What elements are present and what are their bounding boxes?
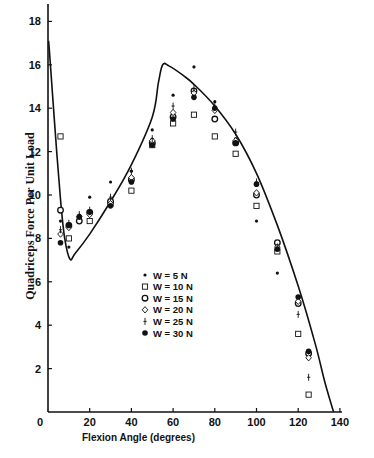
data-point <box>108 203 114 209</box>
x-tick-label: 120 <box>289 416 307 428</box>
data-point <box>151 128 154 131</box>
legend-marker-icon <box>142 284 147 289</box>
chart: 02040608010012014024681012141618 W = 5 N… <box>0 0 374 458</box>
y-tick-label: 14 <box>29 102 42 114</box>
legend-marker-icon <box>143 273 146 276</box>
y-tick-label: 2 <box>35 363 41 375</box>
x-tick-label: 80 <box>209 416 221 428</box>
data-point <box>192 65 195 68</box>
data-point <box>254 203 259 208</box>
legend-label: W = 15 N <box>153 293 193 304</box>
data-point <box>66 223 72 229</box>
data-point <box>233 140 239 146</box>
data-point <box>66 236 71 241</box>
data-point <box>255 219 258 222</box>
axes <box>48 4 342 412</box>
data-point <box>87 218 92 223</box>
data-point <box>58 134 63 139</box>
data-point <box>276 272 279 275</box>
legend-label: W = 20 N <box>153 304 193 315</box>
legend-marker-icon <box>142 295 148 301</box>
data-point <box>212 116 218 122</box>
theoretical-curve <box>49 41 334 412</box>
data-point <box>275 246 281 252</box>
y-tick-label: 4 <box>35 319 42 331</box>
data-point <box>76 214 82 220</box>
data-point <box>297 311 300 318</box>
data-point <box>306 348 312 354</box>
data-point <box>88 196 91 199</box>
data-point <box>172 103 175 110</box>
data-point <box>254 181 260 187</box>
legend-label: W = 30 N <box>153 328 193 339</box>
data-point <box>58 207 64 213</box>
data-point <box>295 294 301 300</box>
x-tick-label: 40 <box>125 416 137 428</box>
data-point <box>212 134 217 139</box>
x-tick-label: 0 <box>37 416 43 428</box>
legend-marker-icon <box>142 330 148 336</box>
legend-label: W = 25 N <box>153 316 193 327</box>
data-point <box>59 219 62 222</box>
data-point <box>307 374 310 381</box>
data-point <box>212 105 218 111</box>
legend-label: W = 10 N <box>153 281 193 292</box>
y-axis-title: Quadriceps Force Per Unit Load <box>23 132 37 300</box>
data-point <box>129 188 134 193</box>
legend-label: W = 5 N <box>153 270 188 281</box>
legend-marker-icon <box>142 307 148 313</box>
x-tick-label: 20 <box>84 416 96 428</box>
y-tick-label: 18 <box>29 15 41 27</box>
data-point <box>67 245 70 248</box>
data-point <box>191 95 197 101</box>
data-point <box>58 240 64 246</box>
x-axis-title: Flexion Angle (degrees) <box>82 432 195 443</box>
x-tick-label: 60 <box>167 416 179 428</box>
data-points <box>58 65 312 397</box>
data-point <box>87 210 93 216</box>
x-tick-label: 140 <box>331 416 349 428</box>
data-point <box>129 179 135 185</box>
x-tick-label: 100 <box>247 416 265 428</box>
data-point <box>296 331 301 336</box>
data-point <box>109 180 112 183</box>
y-tick-label: 16 <box>29 59 41 71</box>
legend: W = 5 NW = 10 NW = 15 NW = 20 NW = 25 NW… <box>142 270 193 339</box>
data-point <box>172 94 175 97</box>
data-point <box>306 392 311 397</box>
data-point <box>170 116 176 122</box>
data-point <box>191 112 196 117</box>
data-point <box>149 142 155 148</box>
data-point <box>233 151 238 156</box>
data-point <box>130 168 133 175</box>
legend-marker-icon <box>143 318 146 325</box>
